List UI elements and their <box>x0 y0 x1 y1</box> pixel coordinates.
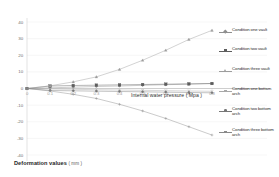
x-tick-0_2: 0.2 <box>67 91 79 96</box>
y-tick-10: 10 <box>9 69 23 74</box>
legend-key-dot-icon <box>219 108 232 114</box>
legend-item-2[interactable]: Condition two vault <box>219 47 279 54</box>
legend-key-cross-icon <box>219 88 232 94</box>
y-axis-unit: ( mm ) <box>68 161 82 166</box>
legend-item-4[interactable]: Condition one bottom arch <box>219 87 279 97</box>
legend-item-6[interactable]: Condition three bottom arch <box>219 128 279 138</box>
legend-key-triangle-icon <box>219 68 232 74</box>
x-axis-unit: ( Mpa ) <box>186 92 202 98</box>
legend-label-2: Condition two vault <box>232 47 267 52</box>
legend-key-plus-icon <box>219 129 232 135</box>
x-axis-title: Internal water pressure ( Mpa ) <box>131 92 202 98</box>
deformation-vs-pressure-chart: 403020100-10-20-30-40 00.10.20.30.40.50.… <box>0 0 279 177</box>
legend-item-3[interactable]: Condition three vault <box>219 67 279 74</box>
x-tick-0_8: 0.8 <box>206 91 218 96</box>
legend-label-3: Condition three vault <box>232 67 270 72</box>
legend-key-diamond-icon <box>219 29 232 35</box>
y-axis-title-text: Deformation values <box>14 160 67 166</box>
legend-key-square-icon <box>219 48 232 54</box>
series-3 <box>26 29 214 90</box>
x-tick-0_4: 0.4 <box>114 91 126 96</box>
legend-item-1[interactable]: Condition one vault <box>219 28 279 35</box>
legend-item-5[interactable]: Condition two bottom arch <box>219 107 279 117</box>
legend-label-5: Condition two bottom arch <box>232 107 279 117</box>
legend-label-1: Condition one vault <box>232 28 267 33</box>
x-axis-title-text: Internal water pressure <box>131 92 184 98</box>
y-tick-40: 40 <box>9 20 23 25</box>
y-tick-neg40: -40 <box>9 153 23 158</box>
legend-label-4: Condition one bottom arch <box>232 87 279 97</box>
x-tick-0_1: 0.1 <box>44 91 56 96</box>
y-tick-30: 30 <box>9 36 23 41</box>
data-series-layer <box>26 29 214 136</box>
y-tick-20: 20 <box>9 53 23 58</box>
y-axis-title: Deformation values ( mm ) <box>14 160 82 166</box>
x-tick-0: 0 <box>21 91 33 96</box>
y-tick-neg20: -20 <box>9 119 23 124</box>
y-tick-neg10: -10 <box>9 103 23 108</box>
x-tick-0_3: 0.3 <box>90 91 102 96</box>
y-tick-neg30: -30 <box>9 136 23 141</box>
legend-label-6: Condition three bottom arch <box>232 128 279 138</box>
